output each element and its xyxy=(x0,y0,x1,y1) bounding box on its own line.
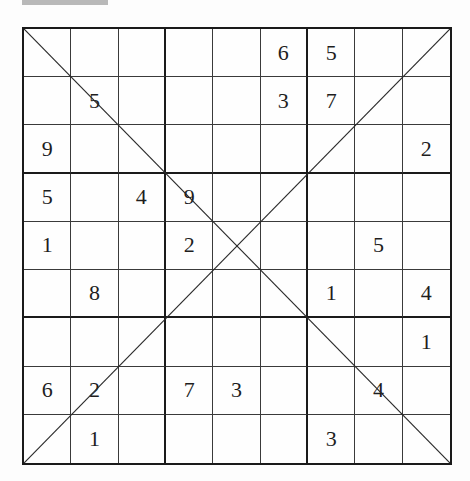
given-cell: 7 xyxy=(308,77,355,125)
empty-cell[interactable] xyxy=(403,77,450,125)
empty-cell[interactable] xyxy=(119,125,166,173)
given-cell: 1 xyxy=(24,222,71,270)
given-cell: 5 xyxy=(355,222,402,270)
sudoku-board: 655379254912581416273413 xyxy=(22,27,452,465)
sudoku-grid: 655379254912581416273413 xyxy=(24,29,450,463)
empty-cell[interactable] xyxy=(261,318,308,366)
given-cell: 7 xyxy=(166,367,213,415)
empty-cell[interactable] xyxy=(119,415,166,463)
empty-cell[interactable] xyxy=(119,29,166,77)
given-cell: 1 xyxy=(403,318,450,366)
given-cell: 1 xyxy=(71,415,118,463)
empty-cell[interactable] xyxy=(24,270,71,318)
empty-cell[interactable] xyxy=(166,125,213,173)
empty-cell[interactable] xyxy=(213,222,260,270)
empty-cell[interactable] xyxy=(119,270,166,318)
empty-cell[interactable] xyxy=(213,270,260,318)
given-cell: 6 xyxy=(261,29,308,77)
empty-cell[interactable] xyxy=(24,77,71,125)
given-cell: 2 xyxy=(403,125,450,173)
empty-cell[interactable] xyxy=(261,367,308,415)
given-cell: 5 xyxy=(71,77,118,125)
empty-cell[interactable] xyxy=(71,318,118,366)
empty-cell[interactable] xyxy=(166,270,213,318)
empty-cell[interactable] xyxy=(119,318,166,366)
empty-cell[interactable] xyxy=(308,222,355,270)
empty-cell[interactable] xyxy=(355,125,402,173)
given-cell: 5 xyxy=(308,29,355,77)
empty-cell[interactable] xyxy=(213,174,260,222)
empty-cell[interactable] xyxy=(119,77,166,125)
empty-cell[interactable] xyxy=(213,318,260,366)
empty-cell[interactable] xyxy=(119,222,166,270)
empty-cell[interactable] xyxy=(166,29,213,77)
empty-cell[interactable] xyxy=(71,222,118,270)
empty-cell[interactable] xyxy=(261,415,308,463)
given-cell: 3 xyxy=(213,367,260,415)
empty-cell[interactable] xyxy=(71,29,118,77)
empty-cell[interactable] xyxy=(403,29,450,77)
given-cell: 3 xyxy=(308,415,355,463)
given-cell: 3 xyxy=(261,77,308,125)
empty-cell[interactable] xyxy=(355,318,402,366)
empty-cell[interactable] xyxy=(355,270,402,318)
empty-cell[interactable] xyxy=(308,367,355,415)
empty-cell[interactable] xyxy=(308,318,355,366)
given-cell: 8 xyxy=(71,270,118,318)
empty-cell[interactable] xyxy=(355,77,402,125)
empty-cell[interactable] xyxy=(166,318,213,366)
empty-cell[interactable] xyxy=(403,174,450,222)
empty-cell[interactable] xyxy=(403,222,450,270)
given-cell: 9 xyxy=(166,174,213,222)
empty-cell[interactable] xyxy=(24,29,71,77)
empty-cell[interactable] xyxy=(355,174,402,222)
given-cell: 9 xyxy=(24,125,71,173)
given-cell: 2 xyxy=(166,222,213,270)
given-cell: 4 xyxy=(119,174,166,222)
empty-cell[interactable] xyxy=(261,222,308,270)
empty-cell[interactable] xyxy=(166,415,213,463)
given-cell: 2 xyxy=(71,367,118,415)
empty-cell[interactable] xyxy=(261,174,308,222)
empty-cell[interactable] xyxy=(213,125,260,173)
empty-cell[interactable] xyxy=(355,415,402,463)
given-cell: 5 xyxy=(24,174,71,222)
header-bar xyxy=(22,0,108,5)
empty-cell[interactable] xyxy=(308,125,355,173)
given-cell: 1 xyxy=(308,270,355,318)
empty-cell[interactable] xyxy=(71,174,118,222)
empty-cell[interactable] xyxy=(403,367,450,415)
empty-cell[interactable] xyxy=(213,77,260,125)
given-cell: 4 xyxy=(355,367,402,415)
empty-cell[interactable] xyxy=(24,415,71,463)
empty-cell[interactable] xyxy=(166,77,213,125)
empty-cell[interactable] xyxy=(119,367,166,415)
empty-cell[interactable] xyxy=(71,125,118,173)
empty-cell[interactable] xyxy=(308,174,355,222)
empty-cell[interactable] xyxy=(213,29,260,77)
empty-cell[interactable] xyxy=(403,415,450,463)
empty-cell[interactable] xyxy=(213,415,260,463)
given-cell: 4 xyxy=(403,270,450,318)
empty-cell[interactable] xyxy=(24,318,71,366)
empty-cell[interactable] xyxy=(261,125,308,173)
empty-cell[interactable] xyxy=(355,29,402,77)
given-cell: 6 xyxy=(24,367,71,415)
empty-cell[interactable] xyxy=(261,270,308,318)
